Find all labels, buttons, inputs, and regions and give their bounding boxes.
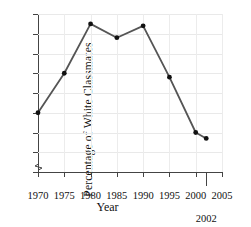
x-tick-extra	[206, 172, 207, 186]
x-axis-title: Year	[0, 200, 251, 215]
data-point-1990	[141, 23, 146, 28]
data-point-1985	[114, 35, 119, 40]
data-point-1980	[88, 21, 93, 26]
x-axis-title-text: Year	[96, 200, 118, 214]
plot-area: 293031323334353637 197019751980198519901…	[38, 14, 222, 172]
series-line	[38, 24, 206, 139]
data-point-1975	[62, 71, 67, 76]
gridline-x	[222, 14, 223, 172]
axis-break-icon	[33, 160, 44, 173]
x-tick	[222, 172, 223, 177]
data-point-1970	[36, 110, 41, 115]
chart-figure: Percentage of White Classmates 293031323…	[0, 0, 251, 227]
data-point-1995	[167, 75, 172, 80]
data-point-2002	[204, 136, 209, 141]
x-axis-line	[38, 172, 222, 173]
data-point-2000	[193, 130, 198, 135]
data-series-line	[38, 14, 222, 172]
